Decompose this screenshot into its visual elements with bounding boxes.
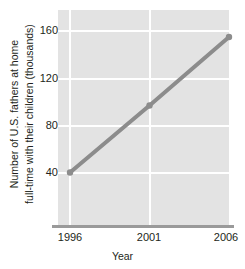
y-tick-label-40: 40 xyxy=(34,166,58,178)
data-series-line xyxy=(58,10,230,225)
y-tick-label-120: 120 xyxy=(34,72,58,84)
x-tick-label-2006: 2006 xyxy=(214,231,238,243)
y-tick-label-160: 160 xyxy=(34,24,58,36)
data-point-2006 xyxy=(226,34,232,40)
y-axis-title-text: Number of U.S. fathers at home full-time… xyxy=(7,24,37,204)
x-tick-label-2001: 2001 xyxy=(137,231,161,243)
plot-area xyxy=(58,10,230,225)
x-axis-line xyxy=(52,225,234,228)
data-point-2001 xyxy=(146,102,152,108)
x-axis-title: Year xyxy=(0,250,245,262)
y-tick-label-80: 80 xyxy=(34,119,58,131)
y-axis-title-line-1: Number of U.S. fathers at home xyxy=(7,24,22,204)
data-point-1996 xyxy=(67,169,73,175)
x-tick-label-1996: 1996 xyxy=(58,231,82,243)
chart-figure: Number of U.S. fathers at home full-time… xyxy=(0,0,245,269)
